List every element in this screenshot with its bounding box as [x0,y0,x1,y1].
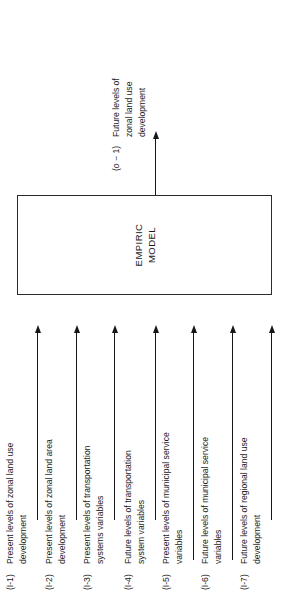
input-3-line-1: Present levels of transportation [81,446,94,564]
input-label-7: (I-7)Future levels of regional land used… [238,437,264,590]
input-1-line-1: Present levels of zonal land use [4,443,17,564]
input-tag-4: (I-4) [122,564,135,590]
input-tag-6: (I-6) [199,564,212,590]
input-label-3: (I-3)Present levels of transportationsys… [81,446,107,590]
input-text-6: Future levels of municipal servicevariab… [199,437,225,564]
output-arrow [155,138,156,195]
input-text-2: Present levels of zonal land areadevelop… [43,439,69,564]
input-text-3: Present levels of transportationsystems … [81,446,107,564]
input-4-line-2: system variables [135,450,148,564]
input-5-line-1: Present levels of municipal service [160,432,173,564]
output-line-2: zonal land use [123,78,136,137]
output-tag: (o − 1) [110,137,123,171]
input-arrow-6 [232,332,233,560]
input-text-1: Present levels of zonal land usedevelopm… [4,443,30,564]
input-tag-2: (I-2) [43,564,56,590]
model-label-line-2: MODEL [145,224,158,267]
output-tag-suffix: − 1) [111,146,121,163]
input-label-2: (I-2)Present levels of zonal land areade… [43,439,69,590]
input-3-line-2: systems variables [94,446,107,564]
input-text-7: Future levels of regional land usedevelo… [238,437,264,564]
empiric-model-box: EMPIRIC MODEL [17,195,272,295]
input-label-5: (I-5)Present levels of municipal service… [160,432,186,590]
input-5-line-2: variables [173,432,186,564]
output-tag-italic: o [111,163,121,168]
input-tag-3: (I-3) [81,564,94,590]
input-arrow-3 [114,332,115,520]
input-arrow-4 [155,332,156,520]
input-6-line-1: Future levels of municipal service [199,437,212,564]
input-arrow-7 [271,332,272,520]
input-7-line-2: development [251,437,264,564]
input-6-line-2: variables [212,437,225,564]
input-text-4: Future levels of transportationsystem va… [122,450,148,564]
output-line-1: Future levels of [110,78,123,137]
output-line-3: development [136,78,149,137]
input-arrow-1 [37,332,38,520]
input-label-1: (I-1)Present levels of zonal land usedev… [4,443,30,590]
input-7-line-1: Future levels of regional land use [238,437,251,564]
input-4-line-1: Future levels of transportation [122,450,135,564]
input-arrow-2 [76,332,77,520]
output-text: Future levels ofzonal land usedevelopmen… [110,78,149,137]
empiric-model-diagram: (o − 1)Future levels ofzonal land usedev… [0,0,286,594]
empiric-model-label: EMPIRIC MODEL [132,224,157,267]
input-label-6: (I-6)Future levels of municipal servicev… [199,437,225,590]
input-2-line-2: development [56,439,69,564]
input-tag-7: (I-7) [238,564,251,590]
input-1-line-2: development [17,443,30,564]
input-label-4: (I-4)Future levels of transportationsyst… [122,450,148,590]
input-tag-5: (I-5) [160,564,173,590]
input-arrow-5 [193,332,194,560]
output-label: (o − 1)Future levels ofzonal land usedev… [110,78,149,171]
input-text-5: Present levels of municipal servicevaria… [160,432,186,564]
input-tag-1: (I-1) [4,564,17,590]
input-2-line-1: Present levels of zonal land area [43,439,56,564]
model-label-line-1: EMPIRIC [132,224,145,267]
